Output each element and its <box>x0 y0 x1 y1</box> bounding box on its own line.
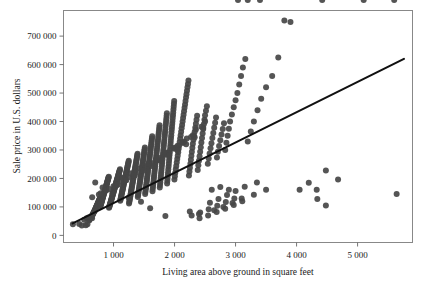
data-point <box>263 187 269 193</box>
data-point <box>197 215 203 221</box>
y-tick-label: 700 000 <box>27 31 57 41</box>
data-point <box>202 119 208 125</box>
data-point <box>106 186 112 192</box>
data-point <box>208 140 214 146</box>
y-tick-label: 300 000 <box>27 145 57 155</box>
data-point <box>214 203 220 209</box>
data-point <box>149 133 155 139</box>
data-point <box>323 202 329 208</box>
x-axis-title: Living area above ground in square feet <box>162 267 314 277</box>
y-tick-label: 600 000 <box>27 60 57 70</box>
data-point <box>149 163 155 169</box>
data-point <box>142 144 148 150</box>
data-point <box>281 17 287 23</box>
data-point <box>92 179 98 185</box>
data-point <box>98 190 104 196</box>
data-point <box>135 151 141 157</box>
x-tick-label: 1 000 <box>103 250 124 260</box>
data-point <box>192 134 198 140</box>
data-point <box>221 120 227 126</box>
data-point <box>245 138 251 144</box>
data-point <box>251 119 257 125</box>
data-point <box>233 188 239 194</box>
y-tick-label: 100 000 <box>27 202 57 212</box>
data-point <box>275 54 281 60</box>
x-tick-label: 2 000 <box>164 250 185 260</box>
y-tick-label: 200 000 <box>27 174 57 184</box>
data-point <box>306 180 312 186</box>
data-point <box>209 135 215 141</box>
data-point <box>224 192 230 198</box>
data-point <box>231 195 237 201</box>
data-point <box>231 202 237 208</box>
data-point <box>194 113 200 119</box>
data-point <box>258 96 264 102</box>
data-point <box>217 137 223 143</box>
data-point <box>323 167 329 173</box>
data-point <box>206 206 212 212</box>
data-point <box>239 198 245 204</box>
data-point <box>242 56 248 62</box>
data-point <box>226 126 232 132</box>
data-point <box>242 184 248 190</box>
data-point <box>132 173 138 179</box>
data-point <box>214 209 220 215</box>
y-tick-label: 400 000 <box>27 117 57 127</box>
data-point <box>200 125 206 131</box>
data-point <box>226 187 232 193</box>
data-point <box>240 64 246 70</box>
data-point <box>236 82 242 88</box>
x-tick-label: 4 000 <box>286 250 307 260</box>
data-point <box>115 182 121 188</box>
data-point <box>255 107 261 113</box>
data-point <box>234 90 240 96</box>
data-point <box>89 194 95 200</box>
data-point <box>138 199 144 205</box>
data-point <box>140 168 146 174</box>
data-point <box>157 122 163 128</box>
data-point <box>214 154 220 160</box>
data-point <box>227 119 233 125</box>
data-point <box>171 98 177 104</box>
data-point <box>314 187 320 193</box>
data-point <box>204 103 210 109</box>
data-point <box>231 104 237 110</box>
data-point <box>238 73 244 79</box>
data-point <box>208 145 214 151</box>
data-point <box>166 153 172 159</box>
data-point <box>211 125 217 131</box>
data-point <box>210 130 216 136</box>
data-point <box>394 191 400 197</box>
data-point <box>269 73 275 79</box>
data-point <box>233 97 239 103</box>
data-point <box>164 110 170 116</box>
data-point <box>123 177 129 183</box>
data-point <box>158 158 164 164</box>
y-tick-label: 500 000 <box>27 88 57 98</box>
data-point <box>220 126 226 132</box>
x-tick-label: 5 000 <box>347 250 368 260</box>
data-point <box>216 143 222 149</box>
data-point <box>117 166 123 172</box>
data-point <box>215 196 221 202</box>
data-point <box>147 205 153 211</box>
data-point <box>212 120 218 126</box>
data-point <box>126 158 132 164</box>
data-point <box>205 161 211 167</box>
data-point <box>205 212 211 218</box>
data-point <box>314 196 320 202</box>
data-point <box>175 147 181 153</box>
y-tick-label: 0 <box>52 231 57 241</box>
data-point <box>207 200 213 206</box>
data-point <box>297 187 303 193</box>
x-tick-label: 3 000 <box>225 250 246 260</box>
data-point <box>263 84 269 90</box>
chart-canvas: 0100 000200 000300 000400 000500 000600 … <box>0 0 423 290</box>
data-point <box>222 206 228 212</box>
data-point <box>185 78 191 84</box>
y-axis-title: Sale price in U.S. dollars <box>12 78 22 173</box>
data-point <box>251 192 257 198</box>
data-point <box>254 179 260 185</box>
data-point <box>213 115 219 121</box>
data-point <box>106 174 112 180</box>
